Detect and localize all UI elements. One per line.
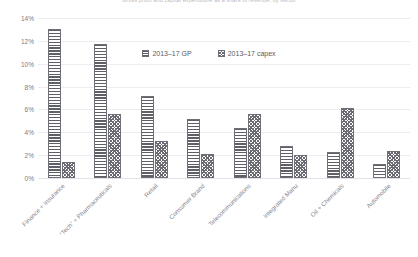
bar-gp[interactable] bbox=[280, 146, 293, 178]
bar-group bbox=[181, 18, 221, 178]
x-axis-tick-label: Automobile bbox=[364, 182, 391, 209]
legend-label-capex: 2013–17 capex bbox=[228, 50, 276, 57]
bar-capex[interactable] bbox=[341, 108, 354, 178]
bar-group bbox=[88, 18, 128, 178]
bar-capex[interactable] bbox=[387, 151, 400, 178]
x-axis-label-slot: Telecommunications bbox=[227, 180, 267, 257]
x-axis-tick-label: Oil + Chemicals bbox=[309, 182, 345, 218]
bar-group bbox=[41, 18, 81, 178]
x-axis-label-slot: Retail bbox=[134, 180, 174, 257]
legend-swatch-gp-icon bbox=[142, 50, 149, 57]
bar-capex[interactable] bbox=[294, 155, 307, 178]
bar-gp[interactable] bbox=[141, 96, 154, 178]
gridline bbox=[38, 178, 410, 179]
x-axis-label-slot: Automobile bbox=[367, 180, 407, 257]
plot-area bbox=[38, 18, 410, 178]
chart-title: Gross profit and capital expenditure as … bbox=[0, 0, 418, 4]
y-axis-tick-label: 2% bbox=[0, 152, 34, 159]
bar-group bbox=[134, 18, 174, 178]
y-axis-tick-label: 6% bbox=[0, 106, 34, 113]
bar-capex[interactable] bbox=[201, 154, 214, 178]
legend-label-gp: 2013–17 GP bbox=[152, 50, 191, 57]
bar-group bbox=[367, 18, 407, 178]
bar-gp[interactable] bbox=[327, 152, 340, 178]
bar-chart: Gross profit and capital expenditure as … bbox=[0, 0, 418, 257]
bar-gp[interactable] bbox=[187, 119, 200, 178]
bar-capex[interactable] bbox=[248, 114, 261, 178]
legend-item-capex[interactable]: 2013–17 capex bbox=[218, 50, 276, 57]
bar-capex[interactable] bbox=[108, 114, 121, 178]
y-axis-tick-label: 10% bbox=[0, 60, 34, 67]
x-axis-tick-label: Retail bbox=[143, 182, 159, 198]
bar-group bbox=[320, 18, 360, 178]
bar-capex[interactable] bbox=[62, 162, 75, 178]
bar-capex[interactable] bbox=[155, 141, 168, 178]
x-axis-label-slot: “Tech” + Pharmaceuticals bbox=[88, 180, 128, 257]
y-axis-tick-label: 8% bbox=[0, 83, 34, 90]
y-axis-tick-label: 12% bbox=[0, 37, 34, 44]
x-axis-label-slot: Integrated Manu bbox=[274, 180, 314, 257]
y-axis-tick-label: 14% bbox=[0, 15, 34, 22]
bar-gp[interactable] bbox=[234, 128, 247, 178]
bar-group bbox=[274, 18, 314, 178]
bar-groups bbox=[38, 18, 410, 178]
bar-group bbox=[227, 18, 267, 178]
bar-gp[interactable] bbox=[94, 44, 107, 178]
bar-gp[interactable] bbox=[373, 164, 386, 178]
x-axis-label-slot: Oil + Chemicals bbox=[320, 180, 360, 257]
legend-item-gp[interactable]: 2013–17 GP bbox=[142, 50, 191, 57]
x-axis-labels: Finance + Insurance“Tech” + Pharmaceutic… bbox=[38, 180, 410, 257]
y-axis-tick-label: 4% bbox=[0, 129, 34, 136]
legend-swatch-capex-icon bbox=[218, 50, 225, 57]
x-axis-tick-label: Finance + Insurance bbox=[21, 182, 66, 227]
chart-legend: 2013–17 GP 2013–17 capex bbox=[0, 50, 418, 57]
y-axis-tick-label: 0% bbox=[0, 175, 34, 182]
